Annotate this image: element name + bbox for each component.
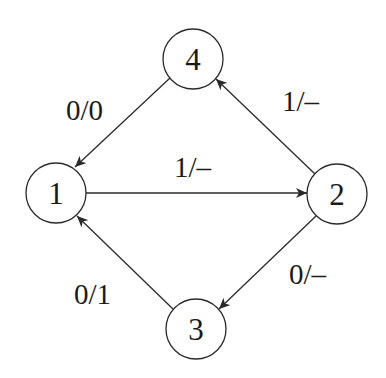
edges (75, 78, 316, 309)
state-node-1-label: 1 (48, 176, 64, 211)
state-node-4: 4 (163, 29, 223, 89)
state-node-4-label: 4 (185, 42, 201, 77)
edge-label-1-to-2: 1/– (174, 151, 212, 183)
edge-label-4-to-1: 0/0 (66, 94, 103, 126)
state-node-2-label: 2 (329, 177, 345, 212)
edge-label-2-to-4: 1/– (282, 85, 320, 117)
state-diagram: 0/0 1/– 1/– 0/– 0/1 1 2 3 4 (0, 0, 386, 378)
state-node-3: 3 (166, 299, 226, 359)
edge-label-2-to-3: 0/– (289, 258, 327, 290)
state-node-1: 1 (26, 163, 86, 223)
edge-labels: 0/0 1/– 1/– 0/– 0/1 (66, 85, 327, 310)
state-node-2: 2 (307, 164, 367, 224)
edge-label-3-to-1: 0/1 (74, 278, 111, 310)
state-node-3-label: 3 (188, 312, 204, 347)
